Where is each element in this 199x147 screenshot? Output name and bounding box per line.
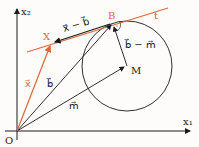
label-vec-b-minus-m: b⃗ − m⃗ <box>124 38 156 50</box>
vector-x <box>17 46 50 131</box>
label-vec-x-minus-b: x⃗ − b⃗ <box>61 15 90 34</box>
label-x1: x₁ <box>183 116 193 127</box>
label-x2: x₂ <box>21 6 31 17</box>
label-M: M <box>131 65 141 76</box>
diagram-svg: x₂ x₁ O B X M t x⃗ b⃗ m⃗ x⃗ − b⃗ b⃗ − m⃗ <box>0 0 199 147</box>
label-B: B <box>108 10 115 21</box>
label-vec-b: b⃗ <box>46 77 53 89</box>
label-vec-m: m⃗ <box>69 100 79 111</box>
label-t: t <box>154 10 158 21</box>
label-origin: O <box>5 135 13 146</box>
label-X: X <box>43 31 51 42</box>
label-vec-x: x⃗ <box>25 78 31 89</box>
vector-m <box>17 67 124 131</box>
tangent-diagram: x₂ x₁ O B X M t x⃗ b⃗ m⃗ x⃗ − b⃗ b⃗ − m⃗ <box>0 0 199 147</box>
